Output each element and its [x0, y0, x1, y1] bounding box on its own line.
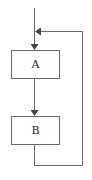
node-a-label: A — [31, 58, 41, 71]
flowchart-canvas: A B — [0, 0, 92, 180]
node-b-label: B — [31, 124, 39, 137]
